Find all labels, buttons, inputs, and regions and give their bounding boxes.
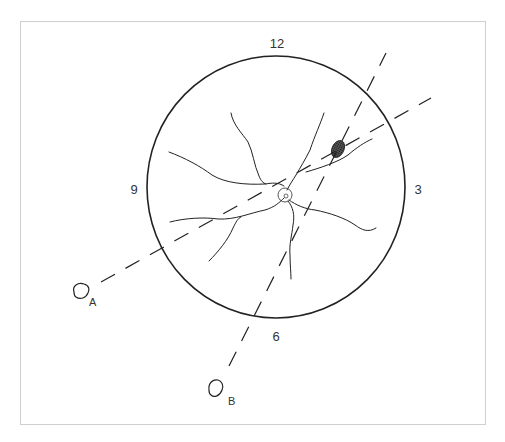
clock-label-3: 3 [414, 183, 421, 196]
optic-disc [278, 188, 292, 202]
light-source-a-label: A [89, 297, 96, 308]
dashed-line-a [101, 98, 431, 282]
vessel-inferonasal [289, 200, 376, 231]
vessel-superonasal [287, 113, 324, 190]
light-source-b-icon [209, 380, 223, 397]
retinal-vessels [169, 113, 376, 279]
fundus-diagram [0, 0, 505, 442]
optic-cup [284, 194, 288, 198]
dashed-line-b [229, 53, 386, 366]
light-source-a-icon [74, 283, 89, 298]
vessel-inferotemporal [170, 198, 284, 222]
light-source-b-label: B [228, 396, 235, 407]
vessel-superior-branch [231, 113, 266, 184]
vessel-inferior [288, 201, 294, 279]
clock-label-9: 9 [130, 183, 137, 196]
vessel-superotemporal [169, 152, 284, 186]
clock-label-6: 6 [272, 330, 279, 343]
vessel-inferior-branch [209, 217, 241, 261]
clock-label-12: 12 [270, 37, 284, 50]
retinal-lesion [329, 138, 347, 159]
fundus-circle [147, 56, 405, 318]
